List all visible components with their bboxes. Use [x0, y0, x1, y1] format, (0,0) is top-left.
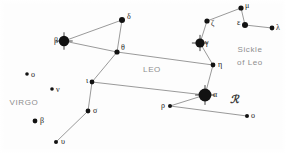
star-leo-beta[interactable]	[59, 36, 69, 46]
star-leo-omicron[interactable]	[245, 114, 249, 118]
constellation-line-epsilon-lambda	[245, 25, 272, 28]
star-leo-sigma[interactable]	[86, 109, 91, 114]
constellation-line-theta-iota	[92, 52, 117, 82]
constellation-line-beta-delta	[64, 20, 122, 41]
star-leo-iota[interactable]	[90, 80, 95, 85]
star-group	[25, 5, 274, 144]
star-leo-mu[interactable]	[238, 5, 243, 10]
constellation-line-zeta-mu	[207, 8, 241, 21]
star-leo-lambda[interactable]	[270, 26, 275, 31]
constellation-lines-layer	[0, 0, 286, 153]
constellation-line-delta-theta	[117, 20, 122, 52]
constellation-line-sigma-upsilon	[56, 111, 88, 142]
star-leo-theta[interactable]	[114, 49, 119, 54]
star-virgo-beta[interactable]	[33, 119, 38, 124]
star-leo-gamma[interactable]	[195, 38, 204, 47]
constellation-line-rho-omicron	[170, 106, 247, 116]
constellation-line-theta-eta	[117, 52, 213, 65]
constellation-line-iota-sigma	[88, 82, 92, 111]
star-leo-delta[interactable]	[119, 17, 125, 23]
constellation-line-group	[56, 8, 272, 142]
star-leo-upsilon[interactable]	[54, 140, 58, 144]
star-leo-eta[interactable]	[211, 63, 216, 68]
constellation-line-beta-theta	[64, 41, 117, 52]
star-virgo-omicron[interactable]	[25, 72, 29, 76]
star-leo-epsilon[interactable]	[242, 22, 248, 28]
star-leo-rho[interactable]	[168, 104, 172, 108]
star-chart: βδθηγζμελαρoισυoνβ LEOVIRGOSickleof Leoℛ	[0, 0, 286, 153]
star-leo-zeta[interactable]	[204, 18, 209, 23]
star-virgo-nu[interactable]	[50, 87, 54, 91]
constellation-line-iota-alpha	[92, 82, 205, 95]
star-leo-alpha[interactable]	[199, 89, 212, 102]
